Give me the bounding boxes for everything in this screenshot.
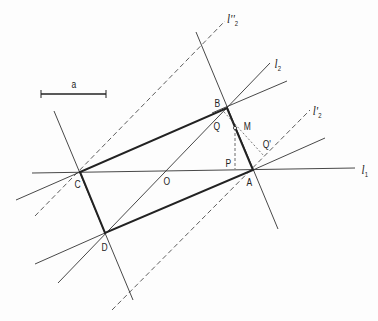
line-l2 xyxy=(58,63,270,283)
label-line-l2: l2 xyxy=(275,57,281,70)
line-l1-subscript: 1 xyxy=(365,171,368,178)
label-point-q-prime: Q' xyxy=(263,140,271,150)
line-l2-double-prime xyxy=(35,21,225,216)
label-line-l2-prime: l'2 xyxy=(313,104,322,117)
point-m xyxy=(233,126,236,129)
geometry-figure xyxy=(0,0,378,321)
label-line-l1: l1 xyxy=(362,163,368,176)
label-point-p: P xyxy=(226,159,232,169)
line-through-d-lower xyxy=(35,233,105,264)
label-point-m: M xyxy=(244,122,251,132)
label-point-a: A xyxy=(247,178,253,188)
label-point-q: Q xyxy=(214,122,221,132)
diagram-canvas: a A B C D O M P Q Q' l1 l2 l'2 l''2 xyxy=(0,0,378,321)
label-point-b: B xyxy=(215,99,221,109)
line-l2-subscript: 2 xyxy=(278,65,281,72)
label-point-d: D xyxy=(102,243,108,253)
line-l2-double-prime-letter: l'' xyxy=(227,11,235,26)
scale-bar-label: a xyxy=(71,80,76,90)
line-l2-prime-subscript: 2 xyxy=(318,112,321,119)
label-point-o: O xyxy=(164,177,171,187)
line-l2-prime xyxy=(112,110,310,310)
label-line-l2-double-prime: l''2 xyxy=(227,12,238,25)
line-through-c-lower xyxy=(16,172,80,200)
line-l2-double-prime-subscript: 2 xyxy=(235,20,238,27)
label-point-c: C xyxy=(75,180,81,190)
